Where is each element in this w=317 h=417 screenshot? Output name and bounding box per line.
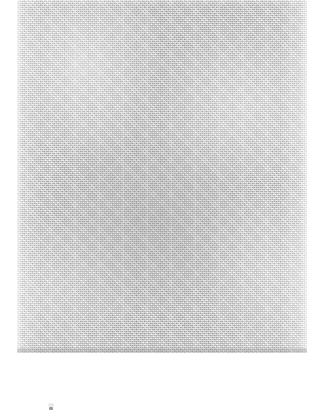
scan-streak-layer: [17, 0, 307, 353]
scanned-image-region: [17, 0, 307, 353]
scanned-page: [0, 0, 317, 417]
scan-edge-fade: [17, 0, 307, 353]
scan-speck-artifact: [49, 407, 53, 410]
page-lower-margin: [0, 353, 317, 417]
scan-grain-layer-primary: [17, 0, 307, 353]
scan-mottling-layer: [17, 0, 307, 353]
scan-grain-layer-secondary: [17, 0, 307, 353]
